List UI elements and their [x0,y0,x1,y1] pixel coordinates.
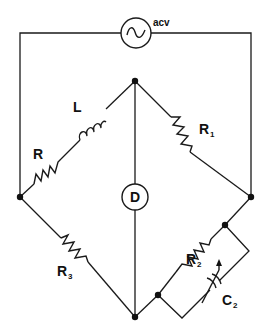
label-r1: R [199,121,209,137]
inductor-l-icon [79,121,106,140]
ac-source-icon [121,18,151,48]
supply-wire-right [151,33,251,197]
node-top [132,78,138,84]
source-label: acv [153,17,170,28]
resistor-r1-icon [171,117,192,152]
arm-bottom-left [20,197,135,317]
node-right [248,194,254,200]
label-r1-sub: 1 [210,130,215,139]
label-r2: R [186,251,196,267]
supply-wire-left [20,33,121,197]
resistor-r3-icon [61,235,88,262]
label-r3: R [57,263,67,279]
node-r2-lower [155,292,161,298]
node-bottom [132,314,138,320]
node-r2-upper [222,222,228,228]
label-c2-sub: 2 [233,301,238,310]
bridge-circuit-diagram: acv R L R 1 R 3 D [0,0,263,333]
detector-label: D [130,189,140,205]
arm-top-right [135,81,251,197]
label-c2: C [222,292,232,308]
label-r: R [33,146,43,162]
node-left [17,194,23,200]
label-r3-sub: 3 [68,272,73,281]
resistor-r-icon [34,159,61,184]
label-r2-sub: 2 [197,260,202,269]
label-l: L [73,99,82,115]
